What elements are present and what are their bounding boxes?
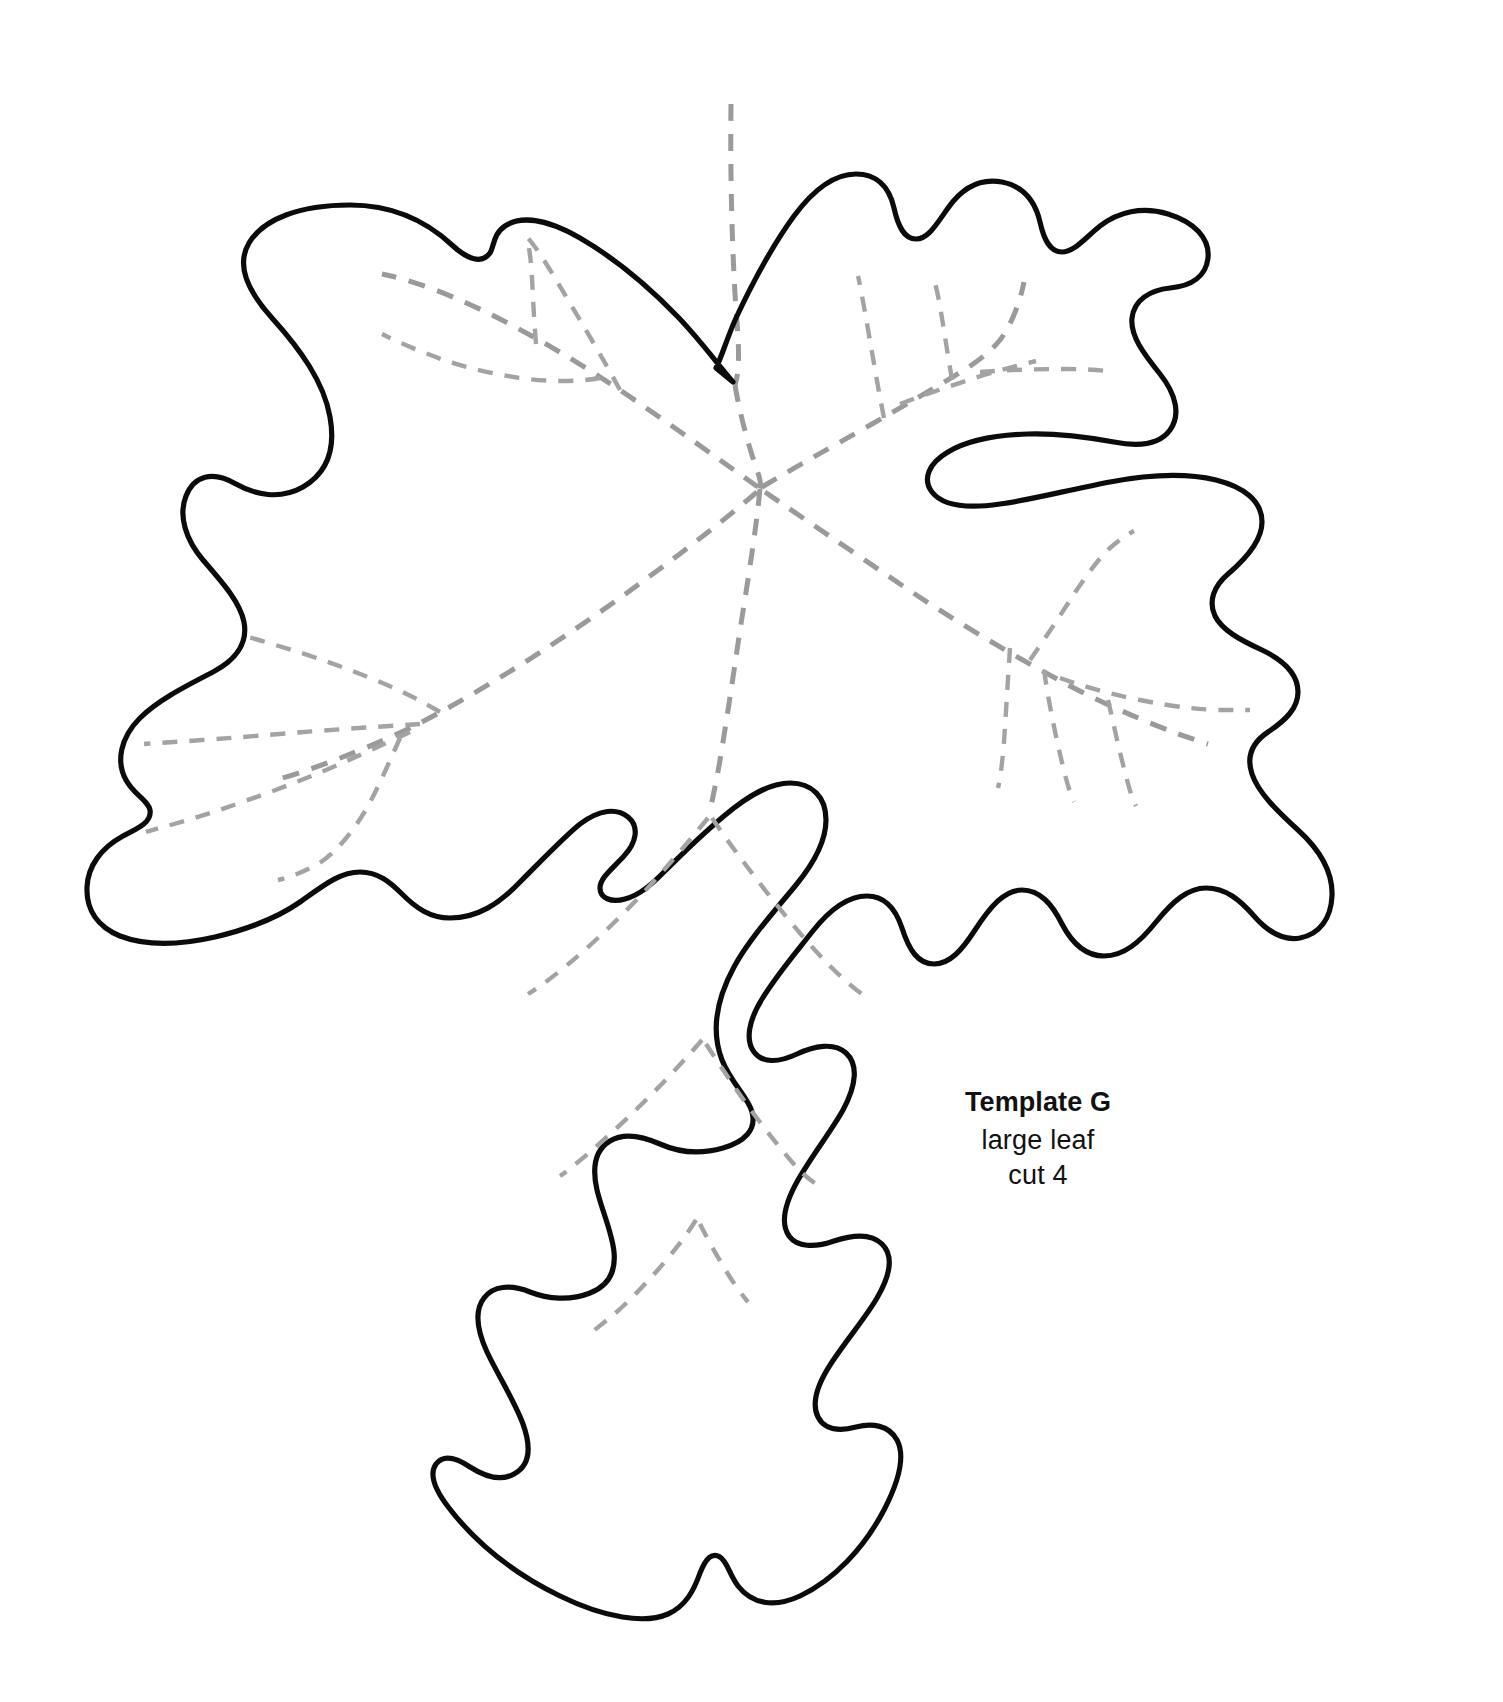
vein-upper-right-branch-d (980, 369, 1106, 372)
vein-bottom-branch-right-3 (700, 1224, 748, 1302)
vein-right-branch-d (998, 648, 1010, 788)
vein-lower-right-main (765, 492, 1208, 744)
vein-upper-right-branch-a (858, 276, 884, 418)
template-page: Template G large leaf cut 4 (0, 0, 1503, 1702)
vein-central-lower (710, 489, 760, 812)
template-label-title: Template G (878, 1085, 1198, 1120)
template-label-size: large leaf (878, 1123, 1198, 1158)
vein-left-branch-a (244, 636, 440, 712)
vein-upper-left-branch-c (528, 244, 536, 344)
vein-upper-left-branch-a (526, 236, 620, 390)
vein-upper-left-branch-b (382, 334, 600, 381)
template-label-quantity: cut 4 (878, 1158, 1198, 1193)
leaf-template-artwork (0, 0, 1503, 1702)
vein-bottom-branch-left-2 (560, 1040, 702, 1176)
vein-left-branch-d (278, 738, 400, 880)
leaf-stem-dashed-line (731, 104, 739, 385)
vein-upper-right-main (762, 282, 1024, 487)
leaf-cut-outline (87, 174, 1332, 1619)
vein-central-upper (735, 385, 761, 489)
vein-right-branch-c (1044, 670, 1074, 802)
vein-right-branch-b (1060, 678, 1250, 710)
vein-right-branch-a (1030, 531, 1134, 660)
vein-upper-right-branch-c (933, 276, 952, 380)
vein-lower-left-main (276, 492, 757, 780)
template-label-block: Template G large leaf cut 4 (878, 1085, 1198, 1193)
